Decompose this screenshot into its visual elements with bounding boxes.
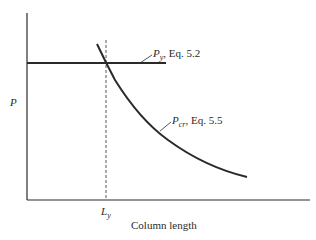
yield-line-symbol: P [153,47,160,59]
yield-line-ref: , Eq. 5.2 [163,47,200,59]
pcr-leader-line [160,122,171,131]
buckling-curve-ref: , Eq. 5.5 [185,114,222,126]
buckling-curve-symbol: P [172,114,179,126]
ly-marker-label: Ly [101,206,111,220]
x-axis-label: Column length [131,220,197,231]
buckling-curve-label: Pcr, Eq. 5.5 [172,115,222,129]
diagram-canvas [0,0,316,240]
py-leader-line [140,55,152,63]
ly-marker-subscript: y [107,211,111,220]
y-axis-label: P [10,97,17,108]
yield-line-label: Py, Eq. 5.2 [153,48,200,62]
